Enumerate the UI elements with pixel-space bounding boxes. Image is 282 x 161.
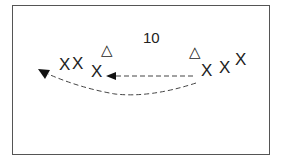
arrows: [0, 0, 282, 161]
